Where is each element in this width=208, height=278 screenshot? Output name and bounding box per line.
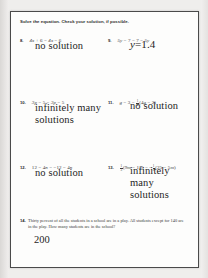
problem-8-number: 8.: [20, 38, 24, 43]
problem-8-answer: no solution: [35, 40, 83, 52]
problem-13-answer-line-1: infinitely many: [130, 165, 170, 188]
problem-11-answer: no solution: [130, 100, 178, 112]
problem-10-answer: infinitely many solutions: [35, 102, 101, 126]
problem-11: 11. g − 3 = 14(4g − 2) no solution: [108, 90, 196, 108]
scanned-document-background: Solve the equation. Check your solution,…: [0, 0, 208, 278]
scan-shadow-right: [201, 0, 208, 278]
problem-14: 14. Thirty percent of all the students i…: [20, 218, 188, 231]
problem-13-answer-line-2: solutions: [130, 189, 169, 200]
problem-9-answer-value: 1.4: [141, 38, 155, 50]
problem-8-answer-line-1: no solution: [35, 40, 83, 51]
problem-11-answer-line-1: no solution: [130, 100, 178, 111]
problem-9-answer: y=1.4: [130, 38, 155, 50]
scan-shadow-left: [0, 0, 9, 278]
problem-10-answer-line-1: infinitely many: [35, 102, 101, 113]
problem-10-answer-line-2: solutions: [35, 114, 74, 125]
problem-13-answer: infinitely many solutions: [130, 165, 196, 200]
problem-11-number: 11.: [108, 100, 114, 105]
problem-13-number: 13.: [108, 165, 114, 170]
problem-12-answer-line-1: no solution: [35, 167, 83, 178]
problem-14-answer: 200: [34, 234, 50, 245]
problem-9-number: 9.: [108, 38, 112, 43]
problem-8: 8. 4x + 6 = 4x − 6 no solution: [20, 28, 106, 46]
problem-10-number: 10.: [20, 100, 26, 105]
problem-9: 9. 5y − 7 = 7 − 5y y=1.4: [108, 28, 196, 46]
problem-12: 12. 12 − 4n = −12 − 4n no solution: [20, 155, 106, 173]
worksheet-page: Solve the equation. Check your solution,…: [10, 11, 199, 268]
problem-14-text: Thirty percent of all the students in a …: [28, 218, 188, 231]
problem-12-answer: no solution: [35, 167, 83, 179]
problem-12-number: 12.: [20, 165, 26, 170]
problem-14-number: 14.: [20, 218, 26, 223]
directions-text: Solve the equation. Check your solution,…: [20, 19, 129, 24]
problem-10: 10. 3p − 5 = 3p − 5 infinitely many solu…: [20, 90, 106, 108]
problem-13: 13. 13(9m − 15) = −15(25 − 5m) infinitel…: [108, 155, 196, 173]
